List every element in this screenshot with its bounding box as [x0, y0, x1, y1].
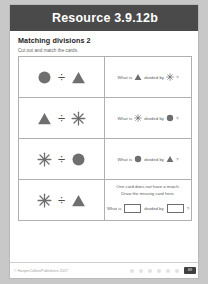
- worksheet-heading: Matching divisions 2: [18, 36, 192, 45]
- question-middle: divided by: [144, 75, 164, 80]
- page-title: Resource 3.9.12b: [52, 11, 158, 25]
- star-shape: [37, 193, 52, 208]
- copyright-text: © HarperCollinsPublishers 2017: [14, 269, 68, 273]
- star-shape: [166, 73, 174, 81]
- triangle-shape: [37, 111, 52, 126]
- card-row: ÷ What is divided by ?: [19, 139, 191, 180]
- question-card-1[interactable]: What is divided by ?: [105, 57, 191, 97]
- division-expression: ÷: [37, 193, 86, 208]
- footer-dot: [148, 269, 152, 273]
- question-prefix: What is: [118, 116, 133, 121]
- card-grid: ÷ What is divided by ?: [18, 56, 192, 221]
- question-prefix: What is: [118, 157, 133, 162]
- footer-dot: [157, 269, 161, 273]
- answer-box-dividend[interactable]: [124, 204, 141, 213]
- worksheet-page: Resource 3.9.12b Matching divisions 2 Cu…: [9, 4, 199, 279]
- division-expression: ÷: [37, 70, 86, 85]
- question-text: What is divided by ?: [118, 114, 179, 122]
- question-suffix: ?: [176, 116, 178, 121]
- question-middle: divided by: [144, 116, 164, 121]
- division-card-1[interactable]: ÷: [19, 57, 105, 97]
- circle-shape: [71, 152, 86, 167]
- circle-shape: [134, 155, 142, 163]
- resource-title-bar: Resource 3.9.12b: [10, 5, 199, 31]
- star-shape: [134, 114, 142, 122]
- divide-icon: ÷: [58, 153, 65, 166]
- question-suffix: ?: [176, 75, 178, 80]
- answer-suffix: ?: [187, 206, 189, 211]
- triangle-shape: [134, 73, 142, 81]
- footer-dot: [130, 269, 134, 273]
- worksheet-instruction: Cut out and match the cards.: [18, 48, 192, 53]
- division-card-4[interactable]: ÷: [19, 180, 105, 220]
- note-line-1: One card does not have a match.: [116, 184, 180, 191]
- division-expression: ÷: [37, 111, 86, 126]
- answer-prefix: What is: [107, 206, 121, 211]
- note-line-2: Draw the missing card here.: [121, 191, 175, 198]
- triangle-shape: [166, 155, 174, 163]
- question-card-3[interactable]: What is divided by ?: [105, 139, 191, 179]
- footer-dot: [139, 269, 143, 273]
- division-card-3[interactable]: ÷: [19, 139, 105, 179]
- question-middle: divided by: [144, 157, 164, 162]
- page-footer: © HarperCollinsPublishers 2017 69: [10, 262, 199, 278]
- footer-dot: [166, 269, 170, 273]
- answer-box-divisor[interactable]: [167, 204, 184, 213]
- question-card-2[interactable]: What is divided by ?: [105, 98, 191, 138]
- card-row: ÷ One card does not have a match. Draw t…: [19, 180, 191, 220]
- missing-card-note: One card does not have a match. Draw the…: [105, 180, 191, 220]
- question-prefix: What is: [118, 75, 133, 80]
- divide-icon: ÷: [58, 112, 65, 125]
- footer-dots: [68, 269, 184, 273]
- answer-middle: divided by: [144, 206, 163, 211]
- page-number-badge: 69: [184, 267, 196, 274]
- card-row: ÷ What is divided by ?: [19, 57, 191, 98]
- division-card-2[interactable]: ÷: [19, 98, 105, 138]
- star-shape: [71, 111, 86, 126]
- divide-icon: ÷: [58, 194, 65, 207]
- divide-icon: ÷: [58, 71, 65, 84]
- question-suffix: ?: [176, 157, 178, 162]
- circle-shape: [37, 70, 52, 85]
- question-text: What is divided by ?: [118, 155, 179, 163]
- triangle-shape: [71, 193, 86, 208]
- triangle-shape: [71, 70, 86, 85]
- question-text: What is divided by ?: [118, 73, 179, 81]
- circle-shape: [166, 114, 174, 122]
- star-shape: [37, 152, 52, 167]
- worksheet-body: Matching divisions 2 Cut out and match t…: [10, 31, 199, 279]
- footer-dot: [175, 269, 179, 273]
- division-expression: ÷: [37, 152, 86, 167]
- answer-question-row: What is divided by ?: [107, 204, 189, 213]
- card-row: ÷ What is divided by ?: [19, 98, 191, 139]
